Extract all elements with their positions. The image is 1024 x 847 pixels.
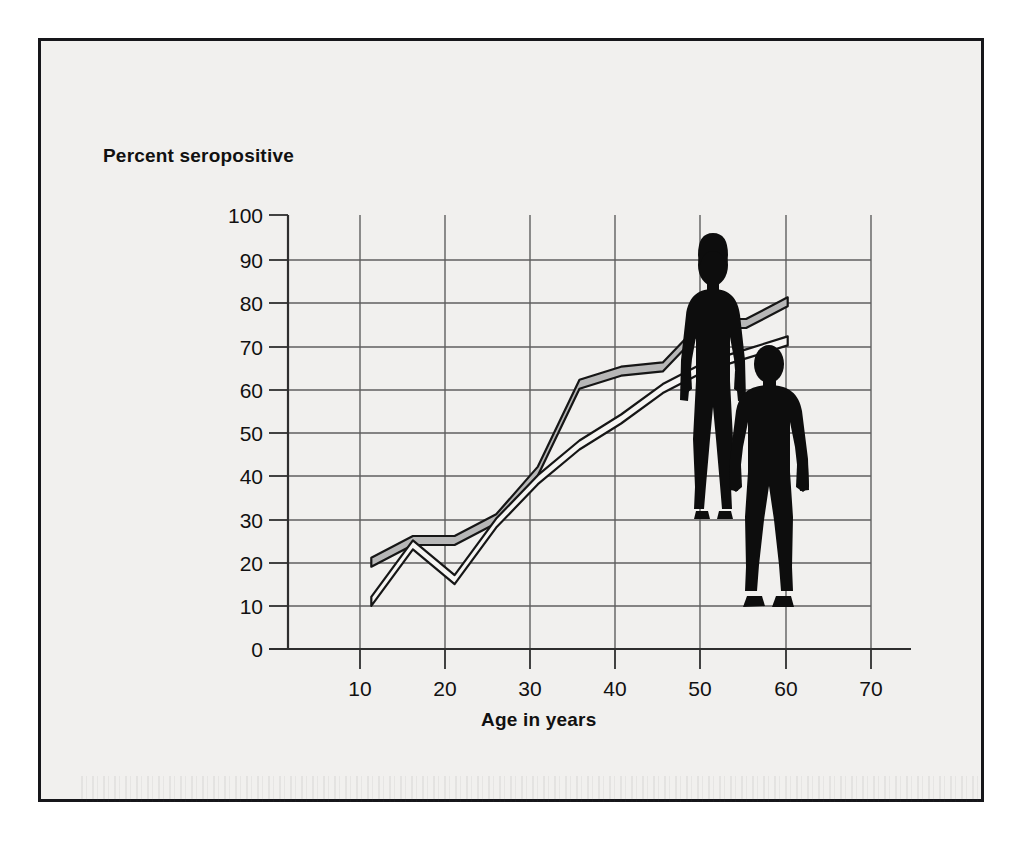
figure-page: Percent seropositive Age in years xyxy=(0,0,1024,847)
axis-lines xyxy=(269,215,911,649)
x-tick-label-10: 10 xyxy=(348,677,371,700)
x-tick-label-20: 20 xyxy=(433,677,456,700)
y-tick-label-70: 70 xyxy=(240,336,263,359)
y-tick-label-0: 0 xyxy=(251,638,263,661)
y-tick-label-10: 10 xyxy=(240,595,263,618)
x-tick-marks xyxy=(360,649,871,669)
x-tick-label-50: 50 xyxy=(688,677,711,700)
y-tick-label-100: 100 xyxy=(228,204,263,227)
y-tick-label-90: 90 xyxy=(240,249,263,272)
x-tick-label-60: 60 xyxy=(774,677,797,700)
x-tick-label-40: 40 xyxy=(603,677,626,700)
line-chart: 100 90 80 70 60 50 40 30 20 10 0 10 20 3… xyxy=(41,41,987,805)
y-tick-label-50: 50 xyxy=(240,422,263,445)
y-tick-label-20: 20 xyxy=(240,552,263,575)
figure-frame: Percent seropositive Age in years xyxy=(38,38,984,802)
y-tick-label-40: 40 xyxy=(240,465,263,488)
x-tick-label-30: 30 xyxy=(518,677,541,700)
y-tick-label-80: 80 xyxy=(240,292,263,315)
x-tick-label-70: 70 xyxy=(859,677,882,700)
y-tick-label-30: 30 xyxy=(240,509,263,532)
y-tick-label-60: 60 xyxy=(240,379,263,402)
y-tick-marks xyxy=(269,215,288,606)
scan-artifact-band xyxy=(81,776,981,802)
